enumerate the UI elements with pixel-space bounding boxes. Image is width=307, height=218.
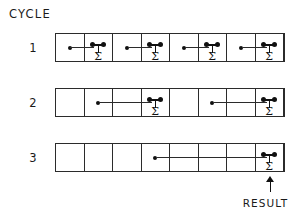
reduction-link-line — [243, 47, 267, 48]
sigma-icon: Σ — [149, 106, 161, 117]
target-cap-right-dot-icon — [272, 42, 277, 47]
result-label: RESULT — [243, 197, 289, 209]
cycle-row-label-3: 3 — [24, 151, 42, 165]
sigma-icon: Σ — [263, 161, 275, 172]
target-cap-left-dot-icon — [261, 97, 266, 102]
sigma-icon: Σ — [206, 51, 218, 62]
sigma-icon: Σ — [92, 51, 104, 62]
target-cap-right-dot-icon — [215, 42, 220, 47]
target-cap-left-dot-icon — [90, 42, 95, 47]
cycle-row-label-2: 2 — [24, 96, 42, 110]
reduction-link-line — [128, 47, 152, 48]
target-cap-right-dot-icon — [158, 42, 163, 47]
reduction-link-line — [185, 47, 209, 48]
target-cap-right-dot-icon — [272, 97, 277, 102]
array-row-cycle-3: Σ — [55, 143, 285, 172]
target-cap-left-dot-icon — [261, 152, 266, 157]
result-arrow-shaft — [270, 180, 272, 192]
sigma-icon: Σ — [263, 51, 275, 62]
target-cap-right-dot-icon — [272, 152, 277, 157]
target-cap-left-dot-icon — [147, 42, 152, 47]
array-cell[interactable] — [85, 144, 114, 171]
result-arrow-icon — [265, 176, 277, 192]
diagram-canvas: CYCLE 1ΣΣΣΣ2ΣΣ3Σ RESULT — [0, 0, 307, 218]
array-row-cycle-2: ΣΣ — [55, 88, 285, 117]
reduction-link-line — [214, 102, 267, 103]
sigma-icon: Σ — [149, 51, 161, 62]
target-cap-left-dot-icon — [147, 97, 152, 102]
target-cap-right-dot-icon — [101, 42, 106, 47]
target-cap-left-dot-icon — [204, 42, 209, 47]
array-cell[interactable] — [56, 89, 85, 116]
target-cap-right-dot-icon — [158, 97, 163, 102]
cycle-heading-label: CYCLE — [9, 7, 51, 21]
cycle-row-label-1: 1 — [24, 41, 42, 55]
reduction-link-line — [157, 157, 267, 158]
reduction-link-line — [99, 102, 152, 103]
sigma-icon: Σ — [263, 106, 275, 117]
reduction-link-line — [70, 47, 94, 48]
array-cell[interactable] — [56, 144, 85, 171]
array-row-cycle-1: ΣΣΣΣ — [55, 33, 285, 62]
target-cap-left-dot-icon — [261, 42, 266, 47]
array-cell[interactable] — [170, 89, 199, 116]
array-cell[interactable] — [113, 144, 142, 171]
